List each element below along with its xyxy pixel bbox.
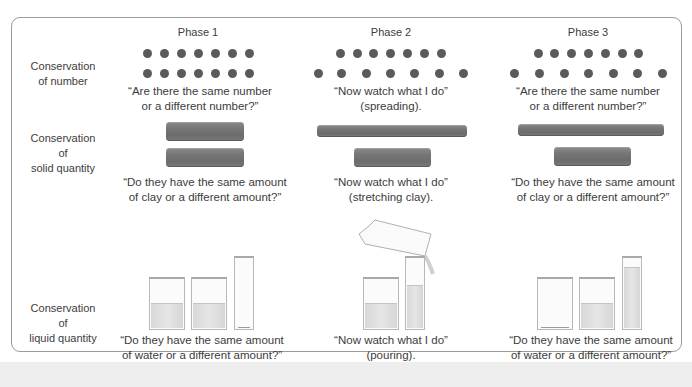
dot-icon <box>177 49 186 58</box>
dot-icon <box>362 69 371 78</box>
dot-icon <box>228 69 237 78</box>
row-label-solid: Conservation of solid quantity <box>8 131 118 176</box>
dot-icon <box>336 49 345 58</box>
caption-number-phase-1: “Are there the same number or a differen… <box>120 84 280 114</box>
dot-icon <box>567 49 576 58</box>
phase-1-header: Phase 1 <box>158 26 238 38</box>
dot-icon <box>633 69 642 78</box>
clay-stretched-icon <box>317 125 467 137</box>
dot-icon <box>618 49 627 58</box>
dot-icon <box>560 69 569 78</box>
dot-icon <box>535 69 544 78</box>
caption-line: “Do they have the same amount <box>508 175 678 190</box>
dot-icon <box>459 69 468 78</box>
caption-line: “Now watch what I do” <box>311 333 471 348</box>
caption-line: “Do they have the same amount <box>120 175 290 190</box>
dot-icon <box>584 49 593 58</box>
caption-line: of clay or a different amount?” <box>120 190 290 205</box>
cylinder-base <box>238 327 250 328</box>
dot-icon <box>245 69 254 78</box>
dot-icon <box>420 49 429 58</box>
caption-line: “Are there the same number <box>508 84 668 99</box>
water-level <box>365 303 397 328</box>
page-bottom-band <box>0 362 692 387</box>
dot-icon <box>403 49 412 58</box>
dot-icon <box>194 49 203 58</box>
dot-icon <box>177 69 186 78</box>
beaker-icon <box>363 277 399 330</box>
caption-line: “Do they have the same amount <box>501 333 681 348</box>
row-label-line: solid quantity <box>8 161 118 176</box>
dot-icon <box>314 69 323 78</box>
caption-solid-phase-1: “Do they have the same amount of clay or… <box>120 175 290 205</box>
dot-icon <box>550 49 559 58</box>
dot-icon <box>435 69 444 78</box>
caption-liquid-phase-1: “Do they have the same amount of water o… <box>112 333 292 363</box>
dot-icon <box>609 69 618 78</box>
dot-icon <box>369 49 378 58</box>
water-level <box>193 303 225 328</box>
dot-icon <box>584 69 593 78</box>
clay-stretched-icon <box>518 124 664 136</box>
beaker-icon <box>191 277 227 330</box>
dot-icon <box>386 69 395 78</box>
beaker-base <box>541 327 569 328</box>
caption-line: (pouring). <box>311 348 471 363</box>
row-label-line: of number <box>8 74 118 89</box>
beaker-icon <box>149 277 185 330</box>
water-level <box>581 303 613 328</box>
row-label-line: of <box>8 316 118 331</box>
caption-line: or a different number?” <box>120 99 280 114</box>
tall-cylinder-icon <box>405 256 425 330</box>
caption-line: “Now watch what I do” <box>311 175 471 190</box>
caption-solid-phase-3: “Do they have the same amount of clay or… <box>508 175 678 205</box>
tall-cylinder-icon <box>234 256 254 330</box>
dot-icon <box>601 49 610 58</box>
dot-icon <box>510 69 519 78</box>
phase-3-header: Phase 3 <box>548 26 628 38</box>
dot-icon <box>386 49 395 58</box>
dot-icon <box>228 49 237 58</box>
caption-line: of water or a different amount?” <box>112 348 292 363</box>
caption-liquid-phase-3: “Do they have the same amount of water o… <box>501 333 681 363</box>
clay-ball-icon <box>166 122 244 141</box>
dot-icon <box>160 49 169 58</box>
dot-icon <box>658 69 667 78</box>
caption-line: “Do they have the same amount <box>112 333 292 348</box>
caption-number-phase-2: “Now watch what I do” (spreading). <box>311 84 471 114</box>
caption-line: of clay or a different amount?” <box>508 190 678 205</box>
dot-icon <box>245 49 254 58</box>
caption-line: (spreading). <box>311 99 471 114</box>
tall-cylinder-icon <box>622 256 642 330</box>
caption-line: “Now watch what I do” <box>311 84 471 99</box>
clay-ball-icon <box>166 148 244 167</box>
caption-line: “Are there the same number <box>120 84 280 99</box>
row-label-line: Conservation <box>8 131 118 146</box>
clay-ball-icon <box>354 148 431 167</box>
water-level <box>624 267 640 328</box>
dot-icon <box>437 49 446 58</box>
caption-line: of water or a different amount?” <box>501 348 681 363</box>
dot-icon <box>534 49 543 58</box>
row-label-liquid: Conservation of liquid quantity <box>8 301 118 346</box>
row-label-line: Conservation <box>8 301 118 316</box>
dot-icon <box>211 69 220 78</box>
empty-beaker-icon <box>537 277 573 330</box>
dot-icon <box>160 69 169 78</box>
caption-line: or a different number?” <box>508 99 668 114</box>
dot-icon <box>337 69 346 78</box>
dot-icon <box>194 69 203 78</box>
phase-2-header: Phase 2 <box>351 26 431 38</box>
dot-icon <box>634 49 643 58</box>
caption-number-phase-3: “Are there the same number or a differen… <box>508 84 668 114</box>
dot-icon <box>143 49 152 58</box>
caption-line: (stretching clay). <box>311 190 471 205</box>
row-label-line: Conservation <box>8 59 118 74</box>
water-level <box>407 285 423 328</box>
beaker-icon <box>579 277 615 330</box>
caption-liquid-phase-2: “Now watch what I do” (pouring). <box>311 333 471 363</box>
row-label-line: of <box>8 146 118 161</box>
clay-ball-icon <box>554 147 631 166</box>
caption-solid-phase-2: “Now watch what I do” (stretching clay). <box>311 175 471 205</box>
dot-icon <box>143 69 152 78</box>
